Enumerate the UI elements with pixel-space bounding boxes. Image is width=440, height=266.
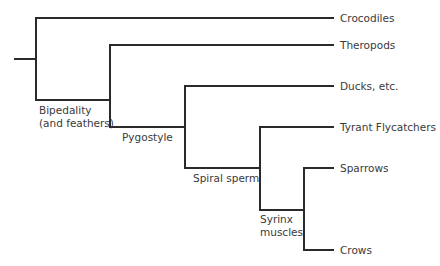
trait-label-line: (and feathers)	[39, 117, 114, 130]
taxon-label-theropods: Theropods	[340, 39, 395, 51]
trait-label-line: muscles	[260, 226, 303, 239]
taxon-label-sparrows: Sparrows	[340, 162, 388, 174]
taxon-label-crows: Crows	[340, 244, 372, 256]
trait-label-line: Syrinx	[260, 213, 303, 226]
trait-label-line: Pygostyle	[122, 131, 173, 144]
taxon-label-ducks: Ducks, etc.	[340, 80, 398, 92]
taxon-label-crocodiles: Crocodiles	[340, 12, 394, 24]
trait-label-pygostyle: Pygostyle	[122, 131, 173, 144]
trait-label-spiral-sperm: Spiral sperm	[193, 172, 259, 185]
trait-label-bipedality: Bipedality (and feathers)	[39, 104, 114, 130]
trait-label-syrinx-muscles: Syrinx muscles	[260, 213, 303, 239]
trait-label-line: Spiral sperm	[193, 172, 259, 185]
trait-label-line: Bipedality	[39, 104, 114, 117]
taxon-label-tyrant-flycatchers: Tyrant Flycatchers	[340, 121, 436, 133]
